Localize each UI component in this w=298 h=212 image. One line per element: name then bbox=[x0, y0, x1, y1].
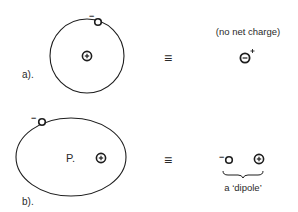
neutral-atom-icon bbox=[240, 49, 254, 63]
part-b-label: b). bbox=[22, 196, 34, 207]
electron-charge: − bbox=[31, 113, 36, 123]
dipole-label: a ‘dipole’ bbox=[224, 182, 262, 193]
dipole-minus-charge: − bbox=[219, 152, 224, 162]
electron-icon bbox=[39, 119, 46, 126]
no-net-charge-annotation: (no net charge) bbox=[216, 26, 280, 37]
electron-icon bbox=[226, 157, 233, 164]
nucleus-icon bbox=[254, 154, 263, 163]
part-b: − P. b). ≡ − a ‘dipole’ bbox=[16, 113, 264, 207]
electron-icon bbox=[95, 19, 102, 26]
part-a-label: a). bbox=[22, 69, 34, 80]
nucleus-icon bbox=[82, 51, 91, 60]
atom-dipole-diagram: − a). ≡ (no net charge) − P. b). ≡ bbox=[0, 0, 298, 212]
point-p-label: P. bbox=[66, 152, 75, 164]
equivalence-symbol: ≡ bbox=[164, 152, 172, 168]
brace-icon bbox=[223, 171, 263, 178]
dipole: − a ‘dipole’ bbox=[219, 152, 264, 193]
part-a: − a). ≡ (no net charge) bbox=[22, 11, 280, 93]
equivalence-symbol: ≡ bbox=[164, 50, 172, 66]
electron-charge: − bbox=[89, 11, 94, 21]
nucleus-icon bbox=[96, 153, 105, 162]
